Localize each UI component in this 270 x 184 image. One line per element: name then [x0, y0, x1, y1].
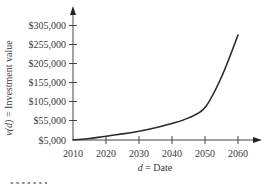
x-tick-label: 2020	[96, 148, 116, 159]
y-tick-labels: $5,000 $55,000 $105,000 $155,000 $205,00…	[29, 20, 67, 146]
x-tick-label: 2040	[162, 148, 182, 159]
y-axis-var: v(d)	[3, 119, 15, 136]
y-tick-label: $255,000	[29, 39, 67, 50]
y-tick-label: $105,000	[29, 96, 67, 107]
x-axis-text: = Date	[143, 162, 173, 173]
y-axis-title: v(d) = Investment value	[3, 40, 15, 136]
y-tick-label: $155,000	[29, 77, 67, 88]
y-axis-text: = Investment value	[3, 40, 14, 120]
footer-text: ▪ ▪ ▪ ▪ ▪ ▪ ▪	[10, 176, 47, 184]
y-tick-label: $305,000	[29, 20, 67, 31]
x-tick-labels: 2010 2020 2030 2040 2050 2060	[63, 148, 248, 159]
x-tick-label: 2030	[129, 148, 149, 159]
x-axis-title: d = Date	[138, 162, 173, 173]
x-tick-label: 2060	[228, 148, 248, 159]
x-tick-label: 2010	[63, 148, 83, 159]
y-axis-arrow-icon	[70, 6, 76, 15]
y-tick-label: $5,000	[39, 135, 67, 146]
x-tick-label: 2050	[195, 148, 215, 159]
data-curve	[73, 35, 238, 140]
investment-chart: $5,000 $55,000 $105,000 $155,000 $205,00…	[0, 0, 270, 184]
x-axis-arrow-icon	[253, 137, 262, 143]
y-tick-label: $55,000	[34, 115, 67, 126]
y-tick-label: $205,000	[29, 58, 67, 69]
